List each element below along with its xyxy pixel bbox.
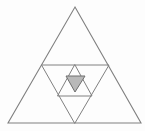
nested-triangles-diagram (0, 0, 145, 131)
figure-canvas (0, 0, 145, 131)
